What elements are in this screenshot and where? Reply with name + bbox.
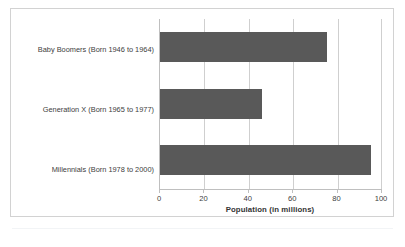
x-tick-label-40: 40 — [233, 194, 263, 203]
x-tick-100 — [381, 189, 382, 193]
x-tick-label-20: 20 — [188, 194, 218, 203]
category-label-millennials: Millennials (Born 1978 to 2000) — [11, 165, 154, 174]
x-tick-label-0: 0 — [144, 194, 174, 203]
category-axis: Baby Boomers (Born 1946 to 1964) Generat… — [11, 9, 158, 189]
x-axis-line — [159, 189, 381, 190]
x-tick-0 — [159, 189, 160, 193]
x-tick-60 — [292, 189, 293, 193]
x-tick-20 — [203, 189, 204, 193]
bar-row — [160, 76, 381, 133]
category-label-baby-boomers: Baby Boomers (Born 1946 to 1964) — [11, 45, 154, 54]
chart-frame: Baby Boomers (Born 1946 to 1964) Generat… — [10, 8, 394, 217]
x-tick-label-60: 60 — [277, 194, 307, 203]
x-tick-label-80: 80 — [322, 194, 352, 203]
category-label-generation-x: Generation X (Born 1965 to 1977) — [11, 105, 154, 114]
bar-millennials[interactable] — [160, 145, 371, 175]
gridline-100 — [381, 19, 382, 189]
bar-row — [160, 132, 381, 189]
x-tick-80 — [337, 189, 338, 193]
caption-divider — [12, 228, 393, 229]
bar-baby-boomers[interactable] — [160, 32, 327, 62]
x-tick-40 — [248, 189, 249, 193]
plot-area — [159, 19, 381, 189]
figure-container: Baby Boomers (Born 1946 to 1964) Generat… — [0, 0, 405, 247]
figure-caption — [10, 236, 395, 246]
bar-generation-x[interactable] — [160, 89, 262, 119]
bar-row — [160, 19, 381, 76]
x-tick-label-100: 100 — [366, 194, 396, 203]
x-axis-title: Population (in millions) — [159, 205, 381, 214]
